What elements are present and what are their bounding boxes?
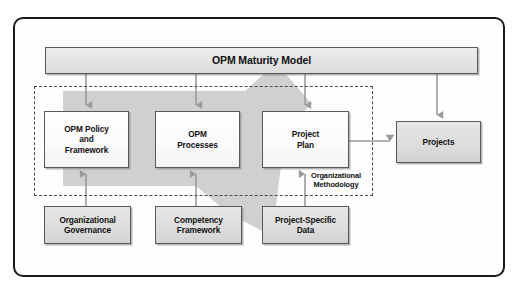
label-line-2: Plan bbox=[297, 140, 314, 150]
box-competency-framework-label: Competency Framework bbox=[174, 215, 223, 235]
box-projects-label: Projects bbox=[423, 137, 455, 147]
opm-maturity-model-title-box[interactable]: OPM Maturity Model bbox=[45, 47, 478, 74]
box-opm-processes-label: OPM Processes bbox=[177, 129, 218, 149]
label-line-1: OPM bbox=[188, 129, 207, 139]
label-line-2: Processes bbox=[177, 140, 218, 150]
opm-maturity-model-title-label: OPM Maturity Model bbox=[212, 54, 311, 67]
label-line-2: and bbox=[79, 134, 93, 144]
label-line-2: Framework bbox=[177, 225, 220, 235]
label-line-1: Competency bbox=[174, 215, 223, 225]
box-project-plan[interactable]: Project Plan bbox=[262, 111, 349, 168]
box-organizational-governance[interactable]: Organizational Governance bbox=[44, 206, 131, 244]
methodology-label-line-1: Organizational bbox=[311, 171, 361, 180]
methodology-label-line-2: Methodology bbox=[314, 180, 359, 189]
diagram-canvas: OPM Maturity Model OPM Policy and Framew… bbox=[0, 0, 518, 292]
box-project-specific-data[interactable]: Project-Specific Data bbox=[262, 206, 349, 244]
label-line-2: Governance bbox=[64, 225, 111, 235]
box-opm-policy-and-framework[interactable]: OPM Policy and Framework bbox=[44, 111, 129, 168]
box-competency-framework[interactable]: Competency Framework bbox=[155, 206, 242, 244]
organizational-methodology-label: Organizational Methodology bbox=[300, 171, 372, 190]
box-project-specific-data-label: Project-Specific Data bbox=[275, 215, 336, 235]
box-projects[interactable]: Projects bbox=[396, 121, 481, 163]
box-organizational-governance-label: Organizational Governance bbox=[59, 215, 115, 235]
label-line-1: Project-Specific bbox=[275, 215, 336, 225]
label-line-3: Framework bbox=[65, 145, 108, 155]
label-line-2: Data bbox=[297, 225, 315, 235]
label-line-1: OPM Policy bbox=[64, 124, 109, 134]
label-line-1: Organizational bbox=[59, 215, 115, 225]
box-opm-policy-and-framework-label: OPM Policy and Framework bbox=[64, 124, 109, 154]
label-line-1: Project bbox=[292, 129, 319, 139]
box-opm-processes[interactable]: OPM Processes bbox=[155, 111, 240, 168]
box-project-plan-label: Project Plan bbox=[292, 129, 319, 149]
